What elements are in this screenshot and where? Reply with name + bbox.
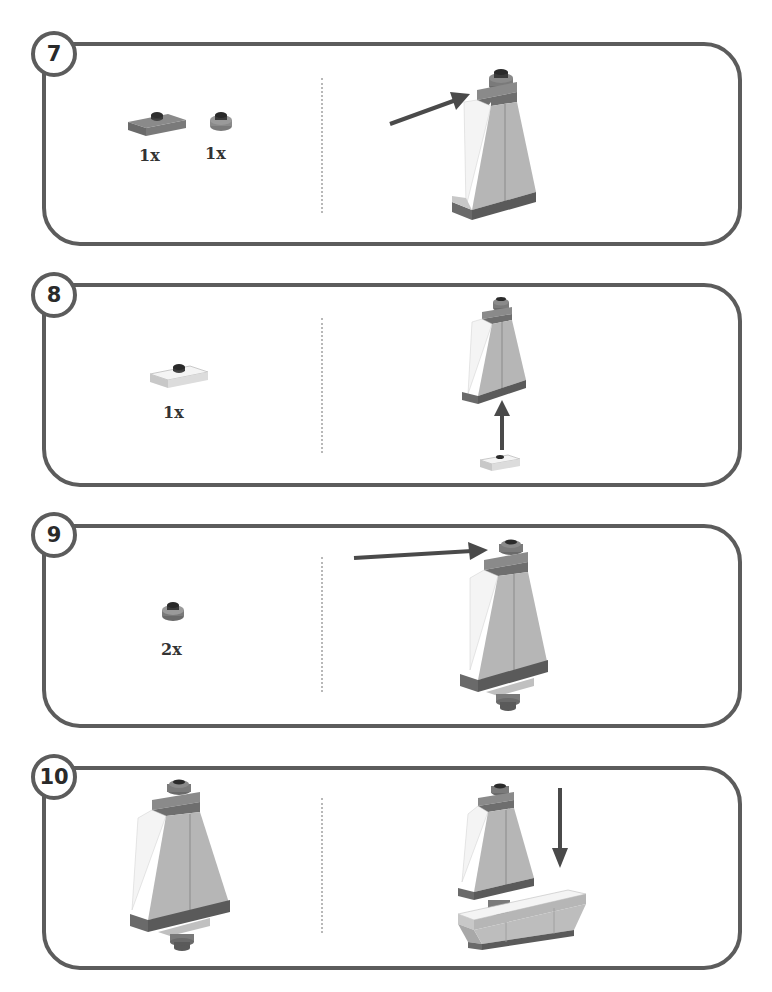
step-divider [321,318,323,453]
part-quantity: 1x [139,146,160,165]
arrow-icon [550,786,570,870]
assembly-model-icon [128,778,238,953]
step-panel-7 [42,42,742,246]
step-panel-8 [42,283,742,487]
step-number-badge: 9 [31,512,77,558]
part-round-plate-1x1-icon [157,600,189,624]
arrow-icon [492,400,512,452]
part-quantity: 1x [163,403,184,422]
part-plate-1x2-jumper-icon [126,110,188,140]
assembly-model-icon [458,538,578,713]
part-quantity: 2x [161,640,182,659]
part-plate-1x2-jumper-icon [478,452,522,476]
step-divider [321,557,323,692]
step-number-badge: 10 [31,754,77,800]
part-quantity: 1x [205,144,226,163]
part-round-plate-1x1-icon [205,110,237,134]
part-plate-1x2-jumper-icon [148,362,210,392]
assembly-model-icon [450,62,570,227]
assembly-model-icon [458,782,598,952]
step-number-badge: 7 [31,31,77,77]
step-divider [321,78,323,213]
step-number-badge: 8 [31,272,77,318]
step-divider [321,798,323,933]
assembly-model-icon [462,294,562,409]
